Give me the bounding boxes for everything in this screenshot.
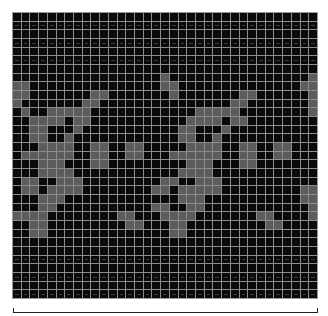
grid-cell [83, 290, 91, 298]
grid-cell [170, 30, 178, 38]
grid-cell [144, 256, 152, 264]
grid-cell [205, 56, 213, 64]
grid-cell [213, 230, 221, 238]
grid-cell [309, 230, 317, 238]
grid-cell [292, 56, 300, 64]
grid-cell [187, 204, 195, 212]
grid-cell [152, 22, 160, 30]
grid-cell [301, 152, 309, 160]
grid-cell [283, 152, 291, 160]
grid-cell [266, 178, 274, 186]
grid-cell [213, 126, 221, 134]
grid-cell [74, 290, 82, 298]
grid-cell [213, 212, 221, 220]
grid-cell [274, 238, 282, 246]
grid-cell [231, 117, 239, 125]
grid-cell [196, 264, 204, 272]
grid-cell [161, 65, 169, 73]
grid-cell [48, 247, 56, 255]
grid-cell [126, 48, 134, 56]
grid-cell [187, 74, 195, 82]
grid-cell [109, 204, 117, 212]
grid-cell [283, 204, 291, 212]
grid-cell [257, 169, 265, 177]
grid-cell [74, 221, 82, 229]
grid-cell [274, 74, 282, 82]
grid-cell [13, 22, 21, 30]
grid-cell [13, 134, 21, 142]
grid-cell [22, 100, 30, 108]
grid-cell [283, 212, 291, 220]
grid-cell [179, 74, 187, 82]
grid-cell [248, 221, 256, 229]
grid-cell [187, 221, 195, 229]
grid-cell [292, 126, 300, 134]
grid-cell [39, 195, 47, 203]
grid-cell [266, 91, 274, 99]
grid-cell [57, 82, 65, 90]
grid-cell [74, 169, 82, 177]
grid-cell [152, 108, 160, 116]
grid-cell [222, 282, 230, 290]
grid-cell [144, 290, 152, 298]
grid-cell [48, 290, 56, 298]
grid-cell [231, 230, 239, 238]
grid-cell [196, 22, 204, 30]
grid-cell [109, 169, 117, 177]
grid-cell [257, 30, 265, 38]
grid-cell [57, 230, 65, 238]
grid-cell [13, 178, 21, 186]
grid-cell [179, 152, 187, 160]
grid-cell [222, 39, 230, 47]
grid-cell [248, 65, 256, 73]
grid-cell [170, 91, 178, 99]
grid-cell [292, 160, 300, 168]
grid-cell [100, 238, 108, 246]
grid-cell [205, 100, 213, 108]
grid-cell [144, 230, 152, 238]
grid-cell [144, 204, 152, 212]
grid-cell [205, 290, 213, 298]
grid-cell [83, 126, 91, 134]
grid-cell [222, 48, 230, 56]
grid-cell [240, 282, 248, 290]
grid-cell [240, 134, 248, 142]
grid-cell [48, 212, 56, 220]
grid-cell [248, 91, 256, 99]
grid-cell [161, 56, 169, 64]
grid-cell [292, 91, 300, 99]
grid-cell [283, 82, 291, 90]
grid-cell [222, 91, 230, 99]
grid-cell [118, 247, 126, 255]
grid-cell [161, 264, 169, 272]
grid-cell [13, 152, 21, 160]
grid-cell [152, 195, 160, 203]
grid-cell [301, 186, 309, 194]
grid-cell [109, 91, 117, 99]
grid-cell [266, 282, 274, 290]
grid-cell [118, 152, 126, 160]
grid-cell [48, 160, 56, 168]
grid-cell [30, 30, 38, 38]
grid-cell [292, 100, 300, 108]
grid-cell [231, 256, 239, 264]
grid-cell [152, 230, 160, 238]
grid-cell [187, 108, 195, 116]
grid-cell [30, 230, 38, 238]
grid-cell [292, 204, 300, 212]
grid-cell [91, 238, 99, 246]
grid-cell [126, 82, 134, 90]
grid-cell [196, 204, 204, 212]
grid-cell [144, 13, 152, 21]
grid-cell [152, 247, 160, 255]
grid-cell [283, 238, 291, 246]
grid-cell [240, 247, 248, 255]
grid-cell [13, 256, 21, 264]
grid-cell [74, 178, 82, 186]
grid-cell [126, 247, 134, 255]
grid-cell [118, 238, 126, 246]
grid-cell [257, 238, 265, 246]
grid-cell [205, 169, 213, 177]
grid-cell [222, 126, 230, 134]
grid-cell [152, 186, 160, 194]
